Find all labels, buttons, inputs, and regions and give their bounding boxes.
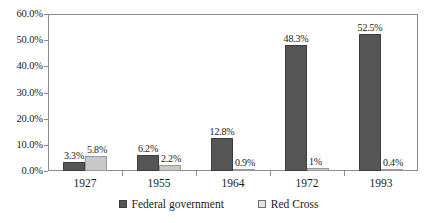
bar-federal-government xyxy=(63,162,85,171)
bar-red-cross xyxy=(159,165,181,171)
y-axis-tick-label: 30.0% xyxy=(0,88,43,98)
bar-value-label: 5.8% xyxy=(81,145,113,155)
x-axis-tick-mark xyxy=(122,171,123,176)
bar-value-label: 12.8% xyxy=(205,127,239,137)
chart-legend: Federal governmentRed Cross xyxy=(0,198,437,210)
bar-red-cross xyxy=(381,169,403,171)
bar-federal-government xyxy=(285,45,307,171)
legend-item: Federal government xyxy=(119,198,224,210)
y-axis-tick-label: 50.0% xyxy=(0,35,43,45)
x-axis-tick-mark xyxy=(270,171,271,176)
y-axis-tick-label: 40.0% xyxy=(0,61,43,71)
y-axis-tick-mark xyxy=(44,171,49,172)
bar-value-label: 6.2% xyxy=(131,144,165,154)
legend-swatch-icon xyxy=(119,200,127,208)
x-axis-category-label: 1927 xyxy=(48,177,122,189)
bar-federal-government xyxy=(137,155,159,171)
x-axis-tick-mark xyxy=(196,171,197,176)
legend-item: Red Cross xyxy=(258,198,319,210)
x-axis-category-label: 1972 xyxy=(270,177,344,189)
y-axis-tick-label: 0.0% xyxy=(0,166,43,176)
y-axis-tick-label: 60.0% xyxy=(0,9,43,19)
legend-label: Red Cross xyxy=(271,198,319,210)
x-axis-category-label: 1993 xyxy=(344,177,418,189)
bar-red-cross xyxy=(233,169,255,171)
bar-chart: 0.0%10.0%20.0%30.0%40.0%50.0%60.0% 3.3%5… xyxy=(0,0,437,223)
y-axis-tick-label: 10.0% xyxy=(0,140,43,150)
bar-value-label: 52.5% xyxy=(353,23,387,33)
legend-swatch-icon xyxy=(258,200,266,208)
x-axis-category-label: 1955 xyxy=(122,177,196,189)
bar-red-cross xyxy=(307,168,329,171)
bar-value-label: 48.3% xyxy=(279,34,313,44)
legend-label: Federal government xyxy=(132,198,224,210)
bar-federal-government xyxy=(359,34,381,171)
x-axis-category-label: 1964 xyxy=(196,177,270,189)
y-axis: 0.0%10.0%20.0%30.0%40.0%50.0%60.0% xyxy=(0,14,43,171)
x-axis-tick-mark xyxy=(344,171,345,176)
bar-federal-government xyxy=(211,138,233,171)
bar-value-label: 2.2% xyxy=(161,154,181,164)
bar-value-label: 0.4% xyxy=(383,158,403,168)
bar-value-label: 1% xyxy=(309,157,322,167)
bar-value-label: 0.9% xyxy=(235,158,255,168)
y-axis-tick-label: 20.0% xyxy=(0,114,43,124)
bars-layer: 3.3%5.8%6.2%2.2%12.8%0.9%48.3%1%52.5%0.4… xyxy=(48,14,418,171)
bar-red-cross xyxy=(85,156,107,171)
